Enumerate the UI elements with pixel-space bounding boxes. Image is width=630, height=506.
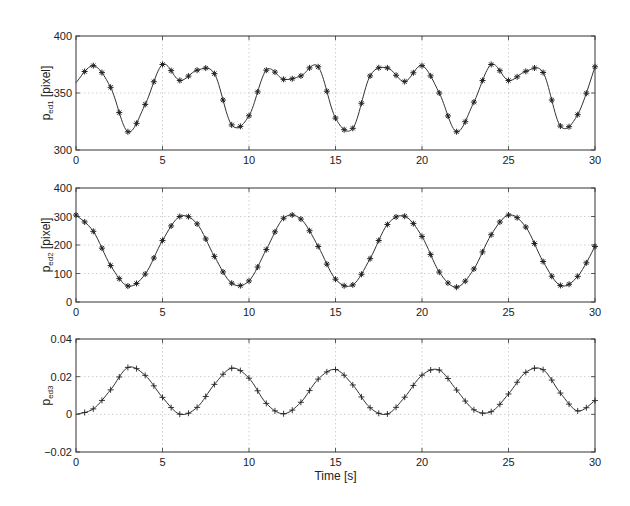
chart-canvas: 051015202530300350400ped1 [pixel]0510152… xyxy=(0,0,630,506)
figure: 051015202530300350400ped1 [pixel]0510152… xyxy=(0,0,630,506)
subplot-2: 0510152025300100200300400ped2 [pixel] xyxy=(39,182,601,318)
data-markers xyxy=(82,364,598,417)
x-tick-label: 5 xyxy=(159,456,165,468)
subplot-3: 051015202530−0.0200.020.04ped3Time [s] xyxy=(39,333,601,483)
x-tick-label: 15 xyxy=(329,456,341,468)
x-tick-label: 10 xyxy=(243,456,255,468)
x-tick-label: 15 xyxy=(329,306,341,318)
x-tick-label: 5 xyxy=(159,306,165,318)
y-tick-label: 350 xyxy=(54,87,72,99)
y-tick-label: −0.02 xyxy=(44,446,72,458)
y-tick-label: 0 xyxy=(66,296,72,308)
x-tick-label: 5 xyxy=(159,154,165,166)
y-axis-label: ped1 [pixel] xyxy=(39,66,55,121)
x-tick-label: 25 xyxy=(502,154,514,166)
x-tick-label: 10 xyxy=(243,154,255,166)
y-tick-label: 300 xyxy=(54,144,72,156)
x-tick-label: 25 xyxy=(502,456,514,468)
x-tick-label: 30 xyxy=(589,154,601,166)
data-markers xyxy=(82,62,598,135)
x-tick-label: 25 xyxy=(502,306,514,318)
data-markers xyxy=(73,212,598,290)
x-tick-label: 20 xyxy=(416,306,428,318)
x-tick-label: 0 xyxy=(73,306,79,318)
x-tick-label: 20 xyxy=(416,154,428,166)
subplot-1: 051015202530300350400ped1 [pixel] xyxy=(39,30,601,166)
y-tick-label: 0.02 xyxy=(51,371,72,383)
y-tick-label: 300 xyxy=(54,211,72,223)
x-tick-label: 0 xyxy=(73,154,79,166)
x-tick-label: 30 xyxy=(589,306,601,318)
y-axis-label: ped2 [pixel] xyxy=(39,218,55,273)
y-axis-label: ped3 xyxy=(39,385,55,406)
x-tick-label: 20 xyxy=(416,456,428,468)
x-tick-label: 30 xyxy=(589,456,601,468)
y-tick-label: 400 xyxy=(54,30,72,42)
x-tick-label: 0 xyxy=(73,456,79,468)
x-tick-label: 15 xyxy=(329,154,341,166)
x-tick-label: 10 xyxy=(243,306,255,318)
x-axis-label: Time [s] xyxy=(314,469,356,483)
y-tick-label: 0.04 xyxy=(51,333,72,345)
y-tick-label: 200 xyxy=(54,239,72,251)
y-tick-label: 0 xyxy=(66,408,72,420)
y-tick-label: 100 xyxy=(54,268,72,280)
y-tick-label: 400 xyxy=(54,182,72,194)
